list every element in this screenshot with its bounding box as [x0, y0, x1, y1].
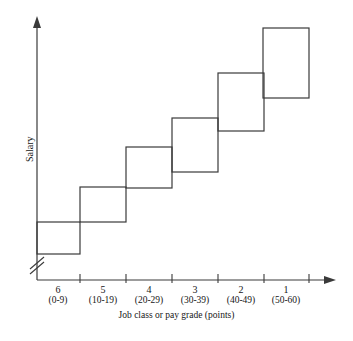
salary-band-box-grade-4: [126, 147, 172, 188]
salary-band-boxes: [37, 28, 309, 254]
salary-band-box-grade-5: [80, 187, 126, 222]
salary-band-box-grade-6: [37, 222, 80, 254]
arrow-up-icon: [33, 16, 41, 28]
salary-band-box-grade-3: [172, 118, 218, 172]
x-tick-label-grade-1: 1 (50-60): [256, 284, 316, 306]
axes-group: [30, 16, 336, 284]
salary-band-box-grade-2: [218, 73, 264, 131]
salary-band-box-grade-1: [263, 28, 309, 98]
arrow-right-icon: [324, 276, 336, 284]
chart-container: Salary 6 (0-9) 5 (10-19) 4 (20-29) 3 (30…: [0, 0, 353, 341]
y-axis-title: Salary: [24, 136, 35, 162]
x-tick-grade-value: 1: [256, 284, 316, 295]
x-tick-points-range: (50-60): [256, 295, 316, 306]
x-axis-title: Job class or pay grade (points): [0, 310, 353, 320]
x-axis-ticks: [80, 274, 309, 283]
